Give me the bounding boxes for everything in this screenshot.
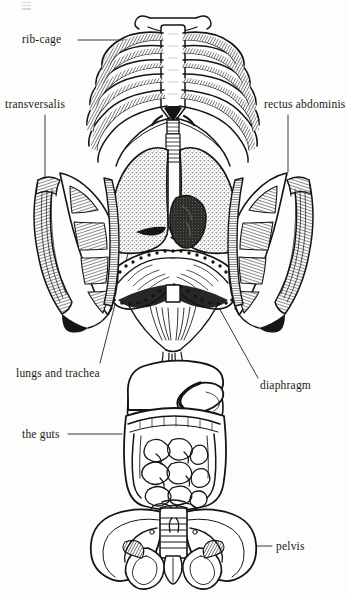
- sacrum: [160, 508, 187, 558]
- label-rib-cage: rib-cage: [22, 34, 61, 46]
- pelvis: [91, 500, 256, 589]
- figure-canvas: rib-cage transversalis rectus abdominis …: [0, 0, 347, 599]
- anatomy-illustration: [0, 0, 347, 599]
- rectus-abdominis-panel: [228, 173, 313, 333]
- label-rectus-abdominis: rectus abdominis: [264, 99, 345, 111]
- label-the-guts: the guts: [22, 429, 60, 441]
- label-diaphragm: diaphragm: [260, 380, 311, 392]
- transversalis-panel: [34, 173, 119, 333]
- label-pelvis: pelvis: [276, 541, 305, 553]
- diaphragm: [109, 249, 238, 367]
- label-transversalis: transversalis: [5, 99, 65, 111]
- label-lungs-and-trachea: lungs and trachea: [16, 368, 100, 380]
